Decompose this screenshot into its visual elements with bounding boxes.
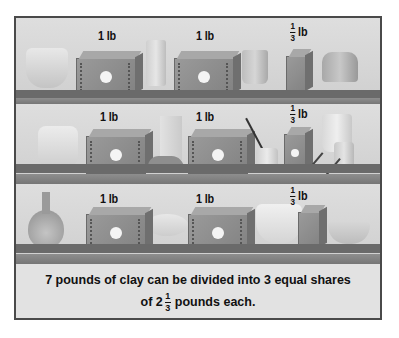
sun-icon (110, 149, 122, 161)
pitcher (242, 50, 268, 84)
tall-block (160, 116, 182, 160)
fraction-one-third: 13 (165, 292, 171, 313)
sun-icon (100, 71, 112, 83)
small-bowl (328, 222, 370, 244)
shelf-board (16, 164, 380, 173)
bottle-vase (28, 210, 64, 248)
flared-pot (322, 52, 358, 82)
weight-label-1lb: 1 lb (98, 29, 116, 43)
caption-box: 7 pounds of clay can be divided into 3 e… (16, 264, 380, 318)
sun-icon (198, 71, 210, 83)
weight-label-third-lb: 13lb (290, 22, 307, 43)
weight-label-1lb: 1 lb (196, 192, 214, 206)
weight-label-third-lb: 13lb (290, 186, 307, 207)
shelf-2: 1 lb 1 lb 13lb (16, 104, 380, 184)
weight-label-1lb: 1 lb (100, 110, 118, 124)
weight-label-1lb: 1 lb (196, 29, 214, 43)
caption-line-1: 7 pounds of clay can be divided into 3 e… (16, 273, 380, 287)
weight-label-1lb: 1 lb (100, 192, 118, 206)
bottle-neck (42, 192, 50, 214)
sun-icon (291, 149, 299, 157)
small-clay-block (286, 56, 306, 94)
caption-line-2: of 213pounds each. (16, 292, 380, 313)
sun-icon (212, 149, 224, 161)
tall-cup (146, 40, 166, 86)
decorated-bowl (256, 204, 302, 244)
shelf-1: 1 lb 1 lb 13lb (16, 18, 380, 104)
shelf-board (16, 244, 380, 253)
measuring-pitcher (38, 126, 78, 168)
wavy-rim-bowl (26, 48, 68, 88)
shelf-edge (16, 254, 380, 264)
weight-label-1lb: 1 lb (196, 110, 214, 124)
sun-icon (212, 227, 224, 239)
illustration-frame: 1 lb 1 lb 13lb 1 lb 1 lb 13lb 1 lb (14, 16, 382, 320)
shelf-edge (16, 174, 380, 184)
shelf-3: 1 lb 1 lb 13lb (16, 184, 380, 264)
sun-icon (110, 227, 122, 239)
weight-label-third-lb: 13lb (290, 104, 307, 125)
